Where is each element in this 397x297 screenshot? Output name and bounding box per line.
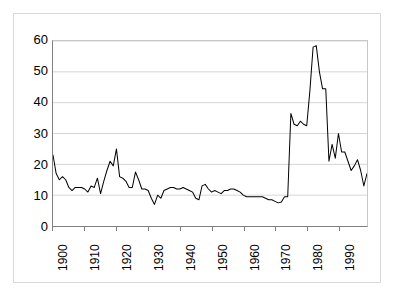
x-tick-label: 1990 (344, 244, 356, 271)
x-tick-label: 1920 (121, 244, 133, 271)
x-tick-label: 1910 (89, 244, 101, 271)
x-tick-mark (148, 227, 149, 231)
x-tick-label: 1900 (57, 244, 69, 271)
x-axis-tick-labels: 1900191019201930194019501960197019801990 (0, 0, 397, 297)
x-tick-label: 1980 (312, 244, 324, 271)
x-tick-mark (84, 227, 85, 231)
x-tick-label: 1960 (249, 244, 261, 271)
chart-container: 0102030405060 19001910192019301940195019… (0, 0, 397, 297)
x-tick-mark (180, 227, 181, 231)
x-tick-label: 1970 (280, 244, 292, 271)
x-tick-mark (339, 227, 340, 231)
x-tick-mark (52, 227, 53, 231)
x-tick-mark (212, 227, 213, 231)
x-tick-mark (244, 227, 245, 231)
x-tick-label: 1950 (217, 244, 229, 271)
x-tick-mark (307, 227, 308, 231)
x-tick-label: 1940 (185, 244, 197, 271)
x-tick-mark (116, 227, 117, 231)
x-tick-mark (275, 227, 276, 231)
x-tick-label: 1930 (153, 244, 165, 271)
